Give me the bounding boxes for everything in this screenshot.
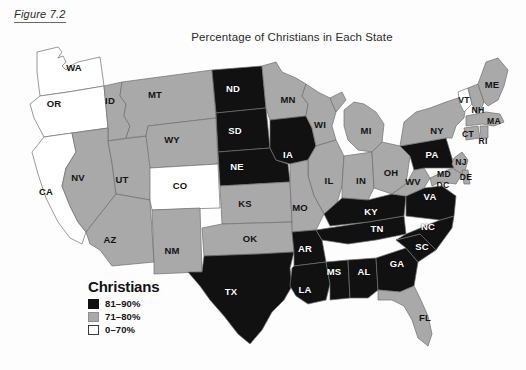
state-shape-RI bbox=[480, 126, 488, 138]
state-shape-NM bbox=[152, 208, 202, 274]
legend-swatch-white bbox=[88, 325, 99, 335]
state-shape-IA bbox=[270, 116, 316, 164]
state-shape-KS bbox=[220, 182, 292, 224]
us-states-svg bbox=[0, 0, 526, 370]
state-shape-LA bbox=[290, 262, 330, 304]
choropleth-map: WAORCAIDNVUTAZMTWYCONMNDSDNEKSOKTXMNIAMO… bbox=[0, 0, 526, 370]
legend-item-high: 81–90% bbox=[88, 298, 159, 309]
state-shape-TX bbox=[188, 252, 294, 344]
state-shape-OK bbox=[202, 222, 294, 256]
state-shape-MN bbox=[262, 62, 308, 120]
state-shape-CO bbox=[150, 164, 220, 210]
legend-label-low: 0–70% bbox=[105, 324, 135, 335]
state-shape-WY bbox=[146, 118, 218, 168]
legend-label-mid: 71–80% bbox=[105, 311, 140, 322]
state-shape-SD bbox=[216, 108, 270, 152]
state-shape-IN bbox=[342, 152, 374, 200]
state-shape-CT bbox=[464, 126, 480, 140]
state-shape-MA bbox=[466, 112, 504, 126]
state-shape-MS bbox=[326, 260, 350, 300]
legend-swatch-gray bbox=[88, 312, 99, 322]
state-shape-MI bbox=[330, 92, 384, 152]
legend-swatch-black bbox=[88, 299, 99, 309]
legend-title: Christians bbox=[88, 278, 159, 295]
legend-item-low: 0–70% bbox=[88, 324, 159, 335]
state-shape-ND bbox=[212, 66, 266, 113]
state-shape-DE bbox=[462, 170, 470, 184]
legend-label-high: 81–90% bbox=[105, 298, 140, 309]
legend-item-mid: 71–80% bbox=[88, 311, 159, 322]
state-shape-FL bbox=[378, 286, 432, 346]
map-legend: Christians 81–90% 71–80% 0–70% bbox=[88, 278, 159, 337]
state-shape-NY bbox=[400, 98, 466, 146]
state-shape-AL bbox=[348, 258, 378, 298]
